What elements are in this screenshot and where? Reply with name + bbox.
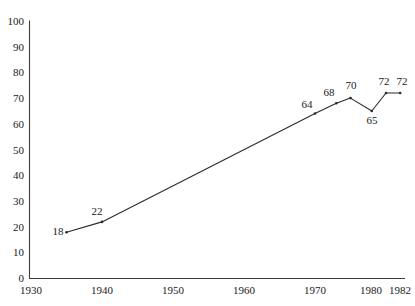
x-tick-label: 1980 bbox=[360, 284, 383, 296]
x-tick-label: 1982 bbox=[389, 284, 411, 296]
data-point bbox=[349, 97, 352, 100]
data-point bbox=[371, 110, 374, 113]
data-point-label: 68 bbox=[324, 86, 336, 98]
x-tick-label: 1950 bbox=[162, 284, 185, 296]
data-point-label: 22 bbox=[92, 205, 103, 217]
line-chart-plot: 100 90 80 70 60 50 40 30 20 10 0 1930 19… bbox=[0, 0, 415, 306]
data-point-label: 70 bbox=[346, 79, 358, 91]
data-point-label: 18 bbox=[53, 225, 65, 237]
x-tick-label: 1970 bbox=[304, 284, 327, 296]
y-tick-label: 70 bbox=[13, 92, 25, 104]
data-point bbox=[65, 231, 68, 234]
y-tick-label: 10 bbox=[13, 246, 25, 258]
y-tick-label: 60 bbox=[13, 118, 25, 130]
data-point bbox=[385, 92, 388, 95]
y-axis-tick-labels: 100 90 80 70 60 50 40 30 20 10 0 bbox=[8, 15, 25, 284]
data-point bbox=[335, 102, 338, 105]
x-tick-label: 1960 bbox=[233, 284, 256, 296]
y-tick-label: 90 bbox=[13, 41, 25, 53]
chart-container: 100 90 80 70 60 50 40 30 20 10 0 1930 19… bbox=[0, 0, 415, 306]
x-tick-label: 1930 bbox=[20, 284, 43, 296]
data-point bbox=[101, 221, 104, 224]
y-tick-label: 20 bbox=[13, 221, 25, 233]
data-point-label: 72 bbox=[397, 75, 408, 87]
data-point-label: 64 bbox=[302, 98, 314, 110]
data-point-labels: 18 22 64 68 70 65 72 72 bbox=[53, 75, 408, 237]
y-tick-label: 80 bbox=[13, 66, 25, 78]
y-tick-label: 50 bbox=[13, 144, 25, 156]
y-tick-label: 30 bbox=[13, 195, 25, 207]
x-axis-tick-labels: 1930 1940 1950 1960 1970 1980 1982 bbox=[20, 284, 411, 296]
x-tick-label: 1940 bbox=[91, 284, 114, 296]
data-point-label: 72 bbox=[379, 75, 390, 87]
data-point-markers bbox=[65, 92, 401, 234]
data-point bbox=[314, 112, 317, 115]
data-point-label: 65 bbox=[367, 114, 379, 126]
data-point bbox=[399, 92, 402, 95]
chart-axes bbox=[30, 21, 406, 279]
data-series-line bbox=[67, 93, 401, 232]
y-tick-label: 0 bbox=[19, 272, 25, 284]
y-tick-label: 100 bbox=[8, 15, 25, 27]
y-tick-label: 40 bbox=[13, 169, 25, 181]
